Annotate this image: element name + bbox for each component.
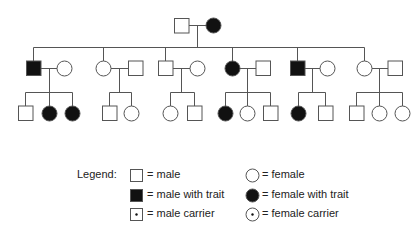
female-symbol [57, 61, 72, 76]
male-with-trait-symbol [291, 61, 306, 76]
female-symbol [124, 106, 139, 121]
male-symbol [175, 19, 190, 34]
female-symbol [357, 61, 372, 76]
female-symbol [163, 106, 178, 121]
female-symbol [395, 106, 410, 121]
female-symbol [190, 61, 205, 76]
male-symbol [19, 106, 34, 121]
female-symbol [320, 61, 335, 76]
legend-male-with-trait-icon [131, 190, 143, 202]
pedigree-chart [0, 0, 418, 236]
legend-female-with-trait-label: = female with trait [262, 188, 349, 200]
male-symbol [388, 61, 403, 76]
male-symbol [159, 61, 174, 76]
male-symbol [319, 106, 334, 121]
legend-male-carrier-label: = male carrier [147, 207, 215, 219]
female-symbol [240, 106, 255, 121]
female-symbol [372, 106, 387, 121]
carrier-dot-icon [135, 213, 137, 215]
legend-female-with-trait-icon [246, 189, 259, 202]
carrier-dot-icon [251, 213, 253, 215]
legend-title: Legend: [77, 168, 117, 180]
female-with-trait-symbol [291, 106, 306, 121]
legend-male-with-trait-label: = male with trait [147, 188, 224, 200]
female-with-trait-symbol [225, 61, 240, 76]
legend-male-icon [131, 170, 143, 182]
male-symbol [129, 61, 144, 76]
male-symbol [264, 106, 279, 121]
legend-female-carrier-label: = female carrier [262, 207, 339, 219]
legend-female-icon [246, 169, 259, 182]
male-symbol [188, 106, 203, 121]
male-symbol [103, 106, 118, 121]
female-symbol [96, 61, 111, 76]
legend-male-label: = male [147, 168, 180, 180]
legend-female-label: = female [262, 168, 305, 180]
male-symbol [256, 61, 271, 76]
connector-lines [26, 26, 403, 107]
female-with-trait-symbol [42, 106, 57, 121]
male-symbol [350, 106, 365, 121]
female-with-trait-symbol [65, 106, 80, 121]
female-with-trait-symbol [206, 18, 221, 33]
male-with-trait-symbol [27, 61, 42, 76]
female-with-trait-symbol [218, 106, 233, 121]
